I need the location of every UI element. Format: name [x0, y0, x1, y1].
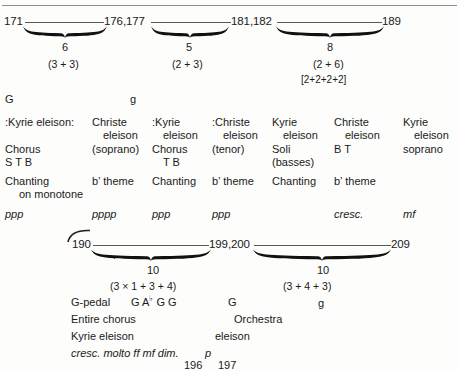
span-line-171-176 — [25, 22, 104, 23]
dynamic-col4: ppp — [212, 208, 230, 220]
text-row-col5: Kyrie eleison — [272, 116, 318, 141]
harmony-right-label: g — [318, 297, 324, 310]
text-row-col1: :Kyrie eleison: — [5, 116, 74, 129]
voices-line2-col3: T B — [152, 156, 187, 169]
technique-row-col6: b’ theme — [334, 175, 376, 188]
group-count-1: 6 — [62, 41, 68, 53]
group-subdivision-5: (3 + 4 + 3) — [283, 280, 331, 292]
harmony-chords: G A♭ G G — [131, 296, 177, 309]
dynamic-col1: ppp — [5, 208, 23, 220]
dynamics-left-label: cresc. molto ff mf dim. — [71, 347, 179, 359]
technique-line1-col3: Chanting — [152, 175, 196, 187]
text-line1-col1: :Kyrie eleison: — [5, 116, 74, 128]
measure-number-190: 190 — [72, 238, 91, 250]
text-row-col4: :Christe eleison — [212, 116, 258, 141]
group-count-2: 5 — [186, 41, 192, 53]
bar-number-196: 196 — [184, 359, 202, 371]
forces-mid-label: Orchestra — [234, 313, 282, 326]
text-line1-col4: :Christe — [212, 116, 250, 128]
group-subdivision-4: (3 × 1 + 3 + 4) — [110, 280, 176, 292]
text-line1-col2: Christe — [92, 116, 127, 128]
group-count-4: 10 — [147, 264, 159, 276]
voices-row-col2: (soprano) — [92, 143, 139, 156]
group-count-5: 10 — [317, 264, 329, 276]
measure-number-209: 209 — [391, 238, 410, 250]
group-subdivision-1: (3 + 3) — [48, 58, 79, 70]
voices-line1-col2: (soprano) — [92, 143, 139, 155]
text-line2-col4: eleison — [212, 129, 258, 142]
bar-number-197: 197 — [218, 359, 236, 371]
technique-line2-col1: on monotone — [5, 188, 83, 201]
text-row-col2: Christe eleison — [92, 116, 138, 141]
technique-row-col4: b’ theme — [212, 175, 254, 188]
dynamics-mid-label: p — [205, 347, 211, 359]
technique-line1-col2: b’ theme — [92, 175, 134, 187]
text-line2-col3: eleison — [152, 129, 198, 142]
text-line1-col7: Kyrie — [403, 116, 428, 128]
group-subdivision-2: (2 + 3) — [172, 58, 203, 70]
key-label-G: G — [5, 93, 14, 105]
technique-line1-col1: Chanting — [5, 175, 49, 187]
voices-line1-col7: soprano — [403, 143, 443, 155]
harmony-chords-text: G A♭ G G — [131, 296, 177, 308]
technique-row-col3: Chanting — [152, 175, 196, 188]
text-row-col7: Kyrie eleison — [403, 116, 449, 141]
technique-row-col2: b’ theme — [92, 175, 134, 188]
measure-number-181-182: 181,182 — [231, 15, 272, 27]
voices-line1-col5: Soli — [272, 143, 290, 155]
text-line1-col3: :Kyrie — [152, 116, 180, 128]
voices-row-col5: Soli (basses) — [272, 143, 314, 168]
voices-line1-col6: B T — [334, 143, 351, 155]
harmony-mid-label: G — [228, 296, 237, 309]
text-mid-label: eleison — [215, 330, 250, 343]
voices-line1-col4: (tenor) — [212, 143, 244, 155]
voices-line1-col3: Chorus — [152, 143, 187, 155]
voices-line1-col1: Chorus — [5, 143, 40, 155]
voices-row-col6: B T — [334, 143, 351, 156]
group-subdivision-3: (2 + 6) — [313, 58, 344, 70]
span-line-200-209 — [254, 245, 391, 246]
text-line2-col5: eleison — [272, 129, 318, 142]
text-line2-col2: eleison — [92, 129, 138, 142]
figure-canvas: 171 176,177 181,182 189 6 5 8 (3 + 3) (2… — [0, 0, 459, 371]
voices-row-col4: (tenor) — [212, 143, 244, 156]
technique-row-col1: Chanting on monotone — [5, 175, 83, 200]
technique-line1-col6: b’ theme — [334, 175, 376, 187]
span-line-177-181 — [151, 22, 231, 23]
dynamic-col7: mf — [403, 208, 415, 220]
voices-row-col3: Chorus T B — [152, 143, 187, 168]
span-line-190-199 — [93, 245, 209, 246]
technique-row-col5: Chanting — [272, 175, 316, 188]
measure-number-176-177: 176,177 — [104, 15, 145, 27]
text-row-col6: Christe eleison — [334, 116, 380, 141]
text-line2-col6: eleison — [334, 129, 380, 142]
voices-row-col1: Chorus S T B — [5, 143, 40, 168]
dynamic-col6: cresc. — [334, 208, 363, 220]
technique-line1-col5: Chanting — [272, 175, 316, 187]
dynamic-col3: ppp — [152, 208, 170, 220]
text-row-col3: :Kyrie eleison — [152, 116, 198, 141]
group-count-3: 8 — [327, 41, 333, 53]
text-left-label: Kyrie eleison — [71, 330, 134, 343]
top-horizontal-rule — [2, 5, 457, 6]
technique-line1-col4: b’ theme — [212, 175, 254, 187]
key-label-g: g — [130, 93, 136, 105]
measure-number-199-200: 199,200 — [209, 238, 250, 250]
voices-line2-col5: (basses) — [272, 156, 314, 169]
voices-line2-col1: S T B — [5, 156, 40, 169]
span-line-182-189 — [277, 22, 382, 23]
group-bracket-3: [2+2+2+2] — [301, 74, 346, 85]
text-line1-col5: Kyrie — [272, 116, 297, 128]
forces-left-label: Entire chorus — [71, 313, 136, 326]
text-line2-col7: eleison — [403, 129, 449, 142]
dynamic-col2: pppp — [92, 208, 116, 220]
text-line1-col6: Christe — [334, 116, 369, 128]
harmony-pedal-label: G-pedal — [71, 296, 110, 309]
voices-row-col7: soprano — [403, 143, 443, 156]
measure-number-171: 171 — [4, 15, 23, 27]
